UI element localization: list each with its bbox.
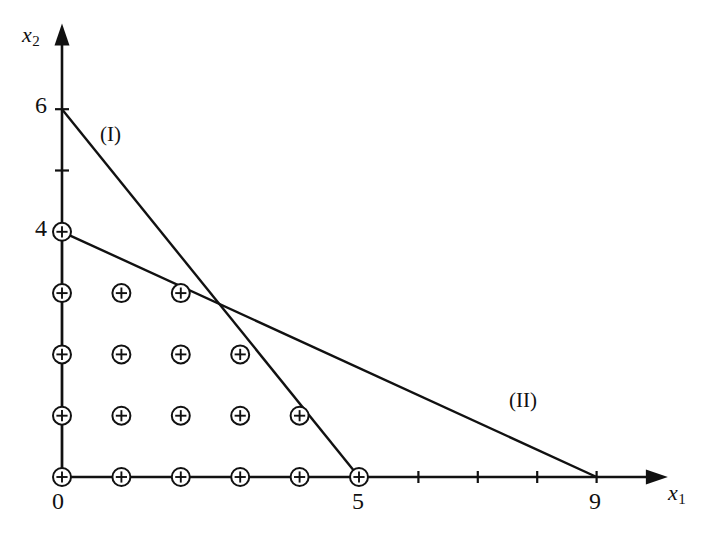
- figure-canvas: x2 x1 6 4 0 5 9 (I) (II): [0, 0, 712, 542]
- y-axis-label-subscript: 2: [32, 33, 40, 49]
- constraint-line-I: [62, 109, 359, 477]
- lattice-point-marker: [231, 407, 249, 425]
- lattice-point-marker: [112, 468, 130, 486]
- lattice-point-marker: [231, 345, 249, 363]
- region-edges-group: [62, 232, 359, 477]
- x-axis-label-base: x: [668, 480, 678, 505]
- x-tick-label-0: 0: [52, 489, 64, 513]
- lattice-point-marker: [53, 345, 71, 363]
- constraint-line-label-II: (II): [509, 390, 537, 411]
- x-axis-label-subscript: 1: [678, 491, 686, 507]
- y-tick-label-6: 6: [35, 93, 47, 117]
- lattice-point-marker: [53, 468, 71, 486]
- lattice-point-marker: [53, 407, 71, 425]
- constraint-lines-group: [62, 109, 597, 477]
- lattice-points-group: [53, 223, 368, 486]
- lattice-point-marker: [112, 407, 130, 425]
- axes-group: [55, 23, 668, 484]
- x-tick-label-5: 5: [352, 489, 364, 513]
- lattice-point-marker: [172, 284, 190, 302]
- axis-ticks-group: [55, 109, 597, 483]
- lattice-point-marker: [231, 468, 249, 486]
- lattice-point-marker: [112, 284, 130, 302]
- lattice-point-marker: [53, 284, 71, 302]
- lattice-point-marker: [53, 223, 71, 241]
- lattice-point-marker: [350, 468, 368, 486]
- lattice-point-marker: [172, 468, 190, 486]
- x-tick-label-9: 9: [589, 489, 601, 513]
- y-axis-label: x2: [22, 24, 40, 49]
- x-axis-arrow-icon: [646, 470, 668, 485]
- lattice-point-marker: [172, 345, 190, 363]
- lattice-point-marker: [112, 345, 130, 363]
- y-axis-arrow-icon: [55, 23, 70, 45]
- lattice-point-marker: [291, 407, 309, 425]
- y-tick-label-4: 4: [35, 216, 47, 240]
- x-axis-label: x1: [668, 482, 686, 507]
- lattice-point-marker: [291, 468, 309, 486]
- plot-svg: [0, 0, 712, 542]
- y-axis-label-base: x: [22, 22, 32, 47]
- lattice-point-marker: [172, 407, 190, 425]
- constraint-line-label-I: (I): [100, 124, 121, 145]
